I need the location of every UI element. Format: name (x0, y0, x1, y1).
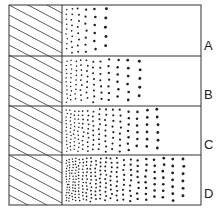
row-label-c: C (204, 138, 213, 151)
diagram-canvas (0, 0, 217, 214)
dots-row-b (65, 58, 141, 103)
hatched-source-region (9, 0, 62, 214)
row-label-a: A (204, 39, 213, 52)
row-label-d: D (204, 187, 213, 200)
dots-row-a (65, 7, 108, 53)
outer-frame (9, 5, 201, 205)
row-label-b: B (204, 88, 213, 101)
diffusion-diagram: ABCD (0, 0, 217, 214)
dots-row-d (65, 157, 185, 203)
dots-row-c (65, 108, 159, 153)
